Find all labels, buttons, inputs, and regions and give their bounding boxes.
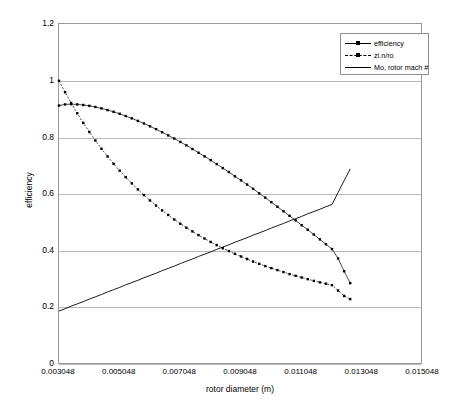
data-point-marker [191, 148, 193, 150]
data-point-marker [131, 117, 133, 119]
data-point-marker [343, 270, 345, 272]
data-point-marker [149, 199, 151, 201]
data-point-marker [319, 238, 321, 240]
data-point-marker [228, 250, 230, 252]
data-point-marker [143, 194, 145, 196]
data-point-marker [264, 265, 266, 267]
x-axis-ticks: 0.003048 0.005048 0.007048 0.009048 0.01… [58, 367, 422, 381]
legend-item-zi-n-ro: zi.n/ro [345, 49, 424, 61]
data-point-marker [288, 273, 290, 275]
data-point-marker [258, 192, 260, 194]
data-point-marker [264, 196, 266, 198]
data-point-marker [112, 111, 114, 113]
data-point-marker [294, 219, 296, 221]
data-point-marker [203, 237, 205, 239]
legend-item-efficiency: efficiency [345, 37, 424, 49]
data-point-marker [319, 281, 321, 283]
y-tick-label: 0.6 [42, 188, 54, 198]
data-point-marker [240, 179, 242, 181]
data-point-marker [270, 267, 272, 269]
data-point-marker [294, 275, 296, 277]
chart-legend: efficiency zi.n/ro Mo, rotor mach # [340, 33, 429, 75]
chart-container: 1.2 1 0.8 0.6 0.4 0.2 0 0.003048 0.00504… [0, 0, 459, 413]
data-point-marker [300, 224, 302, 226]
data-point-marker [276, 269, 278, 271]
data-point-marker [88, 105, 90, 107]
data-point-marker [118, 169, 120, 171]
data-point-marker [179, 141, 181, 143]
data-point-marker [155, 204, 157, 206]
data-point-marker [313, 233, 315, 235]
data-point-marker [58, 80, 60, 82]
data-point-marker [161, 131, 163, 133]
x-tick-label: 0.011048 [284, 367, 317, 376]
series-plot [59, 24, 423, 365]
legend-label: zi.n/ro [374, 51, 394, 60]
series-line [59, 104, 350, 283]
data-point-marker [161, 209, 163, 211]
data-point-marker [209, 241, 211, 243]
data-point-marker [149, 125, 151, 127]
data-point-marker [70, 102, 72, 104]
data-point-marker [155, 128, 157, 130]
data-point-marker [307, 229, 309, 231]
data-point-marker [246, 183, 248, 185]
data-point-marker [252, 260, 254, 262]
data-point-marker [106, 109, 108, 111]
data-point-marker [337, 289, 339, 291]
data-point-marker [76, 103, 78, 105]
data-point-marker [143, 122, 145, 124]
data-point-marker [343, 295, 345, 297]
data-point-marker [167, 214, 169, 216]
series-line [59, 81, 350, 299]
legend-item-mo-rotor-mach: Mo, rotor mach # [345, 61, 424, 73]
data-point-marker [258, 263, 260, 265]
x-tick-label: 0.009048 [223, 367, 256, 376]
data-point-marker [282, 271, 284, 273]
data-point-marker [228, 171, 230, 173]
data-point-marker [252, 188, 254, 190]
data-point-marker [288, 215, 290, 217]
data-point-marker [131, 182, 133, 184]
data-point-marker [331, 248, 333, 250]
legend-label: Mo, rotor mach # [374, 63, 428, 72]
x-tick-label: 0.015048 [405, 367, 438, 376]
data-point-marker [216, 244, 218, 246]
data-point-marker [64, 103, 66, 105]
data-point-marker [100, 107, 102, 109]
data-point-marker [167, 134, 169, 136]
data-point-marker [234, 253, 236, 255]
data-point-marker [276, 206, 278, 208]
x-tick-label: 0.005048 [102, 367, 135, 376]
data-point-marker [234, 175, 236, 177]
data-point-marker [349, 282, 351, 284]
y-tick-label: 0.2 [42, 301, 54, 311]
y-tick-label: 0.8 [42, 132, 54, 142]
data-point-marker [349, 298, 351, 300]
data-point-marker [125, 115, 127, 117]
y-axis-title: efficiency [24, 145, 34, 235]
data-point-marker [82, 104, 84, 106]
x-tick-label: 0.007048 [163, 367, 196, 376]
data-point-marker [82, 122, 84, 124]
data-point-marker [197, 152, 199, 154]
data-point-marker [137, 120, 139, 122]
data-point-marker [185, 227, 187, 229]
data-point-marker [118, 113, 120, 115]
data-point-marker [307, 278, 309, 280]
data-point-marker [222, 167, 224, 169]
data-point-marker [137, 188, 139, 190]
data-point-marker [203, 155, 205, 157]
data-point-marker [125, 176, 127, 178]
data-point-marker [100, 148, 102, 150]
data-point-marker [64, 91, 66, 93]
data-point-marker [94, 106, 96, 108]
data-point-marker [337, 257, 339, 259]
data-point-marker [106, 155, 108, 157]
data-point-marker [197, 234, 199, 236]
data-point-marker [94, 139, 96, 141]
series-line [59, 169, 350, 311]
data-point-marker [300, 276, 302, 278]
data-point-marker [112, 163, 114, 165]
data-point-marker [185, 144, 187, 146]
